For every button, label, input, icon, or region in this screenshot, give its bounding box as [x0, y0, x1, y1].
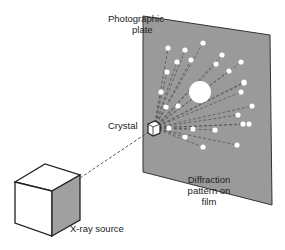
diffraction-spot — [235, 112, 240, 117]
diffraction-spot — [238, 59, 243, 64]
plate-label: Photographic plate — [108, 13, 164, 35]
pattern-label-line3: film — [179, 196, 239, 207]
source-label: X-ray source — [70, 223, 124, 234]
diffraction-spot — [175, 103, 180, 108]
diffraction-diagram — [0, 0, 285, 250]
diffraction-spot — [166, 125, 171, 130]
diffraction-spot — [240, 121, 245, 126]
diffraction-spot — [219, 52, 224, 57]
pattern-label-line1: Diffraction — [179, 174, 239, 185]
plate-label-line1: Photographic — [108, 13, 164, 24]
diffraction-spot — [158, 89, 163, 94]
diffraction-spot — [190, 126, 195, 131]
diffraction-spot — [246, 121, 251, 126]
diffraction-spot — [165, 45, 170, 50]
diffraction-spot — [182, 47, 187, 52]
central-spot — [189, 81, 211, 103]
diffraction-spot — [238, 89, 243, 94]
diffraction-spot — [182, 134, 187, 139]
diffraction-spot — [164, 69, 169, 74]
incident-beam — [80, 131, 150, 178]
pattern-label: Diffraction pattern on film — [179, 174, 239, 207]
diffraction-spot — [200, 144, 205, 149]
crystal-icon — [148, 121, 160, 136]
diffraction-spot — [174, 59, 179, 64]
diffraction-spot — [226, 68, 231, 73]
diffraction-spot — [200, 40, 205, 45]
crystal-label: Crystal — [108, 120, 138, 131]
diffraction-spot — [163, 104, 168, 109]
diffraction-spot — [241, 80, 246, 85]
pattern-label-line2: pattern on — [179, 185, 239, 196]
diffraction-spot — [213, 61, 218, 66]
plate-label-line2: plate — [108, 24, 164, 35]
diffraction-spot — [249, 103, 254, 108]
diffraction-spot — [212, 127, 217, 132]
diffraction-spot — [188, 57, 193, 62]
diffraction-spot — [234, 142, 239, 147]
